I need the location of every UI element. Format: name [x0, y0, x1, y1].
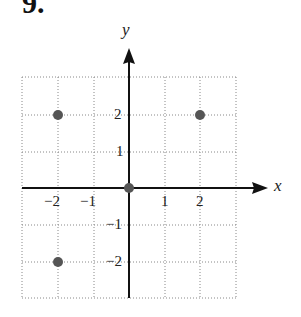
x-tick-label: −2 [44, 193, 60, 210]
data-point [53, 257, 63, 267]
y-tick-label: −1 [106, 216, 122, 233]
x-tick-label: −1 [80, 193, 96, 210]
y-tick-label: 2 [114, 106, 122, 123]
y-axis-arrow-icon [123, 48, 135, 64]
x-tick-label: 2 [196, 193, 204, 210]
y-axis-label: y [122, 20, 130, 40]
coordinate-plane [0, 0, 301, 317]
y-tick-label: −2 [106, 253, 122, 270]
y-tick-label: 1 [116, 143, 124, 160]
x-tick-label: 1 [161, 193, 169, 210]
data-point [53, 110, 63, 120]
y-axis [123, 48, 135, 298]
x-axis-arrow-icon [252, 182, 268, 194]
data-point [195, 110, 205, 120]
data-point [124, 183, 134, 193]
x-axis-label: x [274, 176, 282, 196]
